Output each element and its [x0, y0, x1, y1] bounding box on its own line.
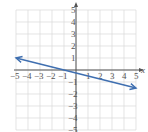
x-tick-label: 4: [122, 71, 127, 81]
y-tick-label: 1: [71, 53, 76, 63]
y-tick-label: 4: [71, 17, 76, 27]
y-tick-label: 5: [71, 5, 76, 15]
x-tick-label: −3: [34, 71, 44, 81]
y-tick-label: 2: [71, 41, 76, 51]
y-tick-label: −2: [68, 89, 78, 99]
x-tick-label: −2: [46, 71, 56, 81]
coordinate-plane: −5−4−3−2−11234554321−1−2−3−4−5 x: [0, 0, 148, 132]
x-tick-label: −5: [10, 71, 20, 81]
x-tick-label: 5: [134, 71, 139, 81]
axes: [14, 2, 144, 132]
tick-labels: −5−4−3−2−11234554321−1−2−3−4−5: [10, 5, 139, 132]
y-tick-label: −1: [68, 77, 78, 87]
y-tick-label: −5: [68, 125, 78, 132]
y-tick-label: −3: [68, 101, 78, 111]
y-tick-label: −4: [68, 113, 78, 123]
x-tick-label: −4: [22, 71, 32, 81]
x-axis-label: x: [140, 65, 145, 75]
x-tick-label: 3: [110, 71, 115, 81]
x-tick-label: −1: [58, 71, 68, 81]
y-tick-label: 3: [71, 29, 76, 39]
